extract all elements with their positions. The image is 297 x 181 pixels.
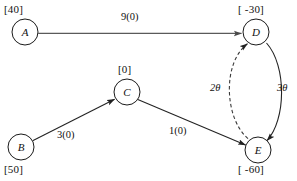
arc-c-to-e	[138, 99, 246, 145]
supply-label-a: [40]	[4, 4, 23, 15]
supply-label-b: [50]	[4, 164, 23, 175]
supply-label-c: [0]	[118, 64, 131, 75]
node-label-b: B	[8, 142, 34, 153]
node-label-e: E	[245, 145, 271, 156]
supply-label-d: [ -30]	[238, 4, 264, 15]
arc-label-d-to-e: 3θ	[277, 83, 287, 94]
node-label-a: A	[12, 27, 38, 38]
arc-label-b-to-c: 3(0)	[57, 130, 75, 141]
arc-label-e-to-d: 2θ	[210, 83, 220, 94]
node-label-c: C	[114, 87, 140, 98]
supply-label-e: [ -60]	[238, 164, 264, 175]
node-label-d: D	[243, 27, 269, 38]
network-diagram: A B C D E [40] [50] [0] [ -30] [ -60] 9(…	[0, 0, 297, 181]
arc-e-to-d-dashed	[229, 44, 248, 139]
arc-label-c-to-e: 1(0)	[169, 126, 187, 137]
arc-label-a-to-d: 9(0)	[121, 12, 139, 23]
